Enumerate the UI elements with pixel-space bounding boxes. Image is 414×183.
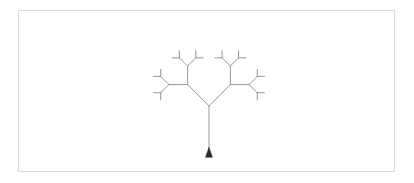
branch-segment	[179, 58, 187, 66]
branch-segment	[230, 58, 238, 66]
fractal-tree-graphic	[19, 11, 394, 171]
drawing-canvas[interactable]	[18, 10, 395, 172]
branch-segment	[222, 58, 230, 66]
branch-segment	[188, 58, 196, 66]
branch-segment	[188, 85, 209, 106]
tree-branches	[153, 51, 264, 155]
branch-segment	[249, 76, 257, 84]
branch-segment	[249, 85, 257, 93]
branch-segment	[209, 85, 230, 106]
branch-segment	[161, 85, 169, 93]
turtle-cursor	[206, 147, 213, 157]
branch-segment	[161, 76, 169, 84]
app-root	[0, 0, 414, 183]
